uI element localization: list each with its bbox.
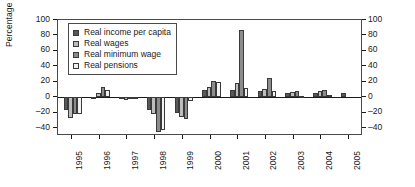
x-tick-mark <box>210 135 211 139</box>
y-tick-mark-left <box>53 96 57 97</box>
y-tick-mark-left <box>53 50 57 51</box>
y-tick-mark-right <box>362 65 366 66</box>
x-tick-mark <box>348 135 349 139</box>
x-tick-mark <box>154 135 155 139</box>
y-tick-label-right: 80 <box>368 30 377 39</box>
bar <box>299 96 304 98</box>
legend-swatch-icon <box>73 41 79 47</box>
x-tick-mark <box>265 135 266 139</box>
y-tick-label-right: 60 <box>368 45 377 54</box>
y-tick-label-left: –20 <box>36 107 50 116</box>
x-tick-mark <box>237 135 238 139</box>
y-tick-label-left: 20 <box>41 76 50 85</box>
bar <box>161 97 166 129</box>
legend-item: Real wages <box>73 38 171 49</box>
legend-item: Real minimum wage <box>73 49 171 60</box>
legend-swatch-icon <box>73 63 79 69</box>
x-tick-mark <box>293 135 294 139</box>
x-tick-label: 2000 <box>214 151 223 181</box>
y-tick-mark-right <box>362 112 366 113</box>
y-tick-mark-left <box>53 34 57 35</box>
legend-swatch-icon <box>73 30 79 36</box>
legend-label: Real minimum wage <box>84 49 161 60</box>
x-tick-label: 2003 <box>297 151 306 181</box>
bar-group <box>175 20 193 134</box>
x-tick-label: 2002 <box>269 151 278 181</box>
y-tick-label-right: 40 <box>368 61 377 70</box>
y-tick-mark-right <box>362 96 366 97</box>
x-tick-label: 2004 <box>325 151 334 181</box>
y-tick-mark-left <box>53 19 57 20</box>
bar <box>105 90 110 98</box>
bar-group <box>313 20 331 134</box>
x-tick-label: 1998 <box>159 151 168 181</box>
bar <box>327 95 332 97</box>
x-tick-label: 1995 <box>75 151 84 181</box>
x-tick-mark <box>126 135 127 139</box>
y-tick-mark-right <box>362 19 366 20</box>
bar <box>272 91 277 97</box>
x-tick-label: 1999 <box>186 151 195 181</box>
y-tick-label-right: –40 <box>368 123 382 132</box>
bar-chart: Percentage change, year-on-year –40–2002… <box>0 0 415 187</box>
y-tick-label-left: –40 <box>36 123 50 132</box>
y-tick-label-left: 40 <box>41 61 50 70</box>
chart-legend: Real income per capitaReal wagesReal min… <box>68 23 177 75</box>
x-tick-mark <box>182 135 183 139</box>
y-tick-mark-left <box>53 127 57 128</box>
legend-item: Real income per capita <box>73 27 171 38</box>
y-tick-mark-right <box>362 34 366 35</box>
y-tick-label-left: 80 <box>41 30 50 39</box>
y-tick-label-right: 0 <box>368 92 373 101</box>
bar-group <box>258 20 276 134</box>
y-tick-mark-right <box>362 81 366 82</box>
y-axis-label-left: Percentage change, year-on-year <box>2 0 16 47</box>
y-tick-label-left: 60 <box>41 45 50 54</box>
legend-swatch-icon <box>73 52 79 58</box>
y-tick-label-left: 0 <box>45 92 50 101</box>
bar <box>133 97 138 99</box>
y-tick-label-right: –20 <box>368 107 382 116</box>
y-tick-mark-left <box>53 65 57 66</box>
bar <box>244 88 249 97</box>
x-tick-label: 1996 <box>103 151 112 181</box>
legend-label: Real pensions <box>84 60 138 71</box>
y-axis-ticks-right: –40–20020406080100 <box>368 19 392 135</box>
legend-item: Real pensions <box>73 60 171 71</box>
legend-label: Real income per capita <box>84 27 171 38</box>
y-tick-mark-left <box>53 112 57 113</box>
bar-group <box>285 20 303 134</box>
bar <box>188 97 193 101</box>
y-tick-label-right: 20 <box>368 76 377 85</box>
y-tick-mark-right <box>362 127 366 128</box>
x-tick-mark <box>320 135 321 139</box>
bar-group <box>341 20 359 134</box>
bar-group <box>230 20 248 134</box>
x-tick-label: 1997 <box>131 151 140 181</box>
y-axis-ticks-left: –40–20020406080100 <box>26 19 50 135</box>
y-tick-mark-right <box>362 50 366 51</box>
bar <box>77 97 82 114</box>
x-tick-label: 2005 <box>353 151 362 181</box>
bar <box>216 82 221 97</box>
legend-label: Real wages <box>84 38 128 49</box>
x-tick-label: 2001 <box>242 151 251 181</box>
bar-group <box>202 20 220 134</box>
y-tick-label-left: 100 <box>36 15 50 24</box>
y-tick-mark-left <box>53 81 57 82</box>
y-tick-label-right: 100 <box>368 15 382 24</box>
x-tick-mark <box>71 135 72 139</box>
bar <box>341 93 346 98</box>
x-tick-mark <box>99 135 100 139</box>
